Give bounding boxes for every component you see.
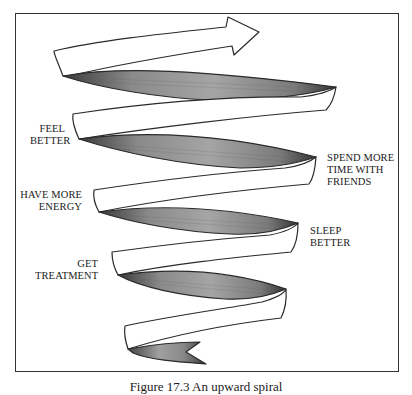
label-spend-more-time-with-friends: SPEND MORE TIME WITH FRIENDS: [327, 152, 394, 188]
label-line: SLEEP: [310, 225, 350, 237]
label-line: SPEND MORE: [327, 152, 394, 164]
label-line: ENERGY: [20, 201, 82, 213]
label-line: TREATMENT: [35, 270, 98, 282]
label-get-treatment: GET TREATMENT: [35, 258, 98, 282]
label-sleep-better: SLEEP BETTER: [310, 225, 350, 249]
label-line: FRIENDS: [327, 176, 394, 188]
label-line: HAVE MORE: [20, 189, 82, 201]
label-have-more-energy: HAVE MORE ENERGY: [20, 189, 82, 213]
label-line: BETTER: [310, 237, 350, 249]
label-line: BETTER: [30, 135, 65, 147]
label-line: GET: [35, 258, 98, 270]
label-line: FEEL: [30, 123, 65, 135]
arrow-head: [54, 17, 259, 76]
label-feel-better: FEEL BETTER: [30, 123, 65, 147]
label-line: TIME WITH: [327, 164, 394, 176]
figure-caption: Figure 17.3 An upward spiral: [0, 379, 412, 395]
